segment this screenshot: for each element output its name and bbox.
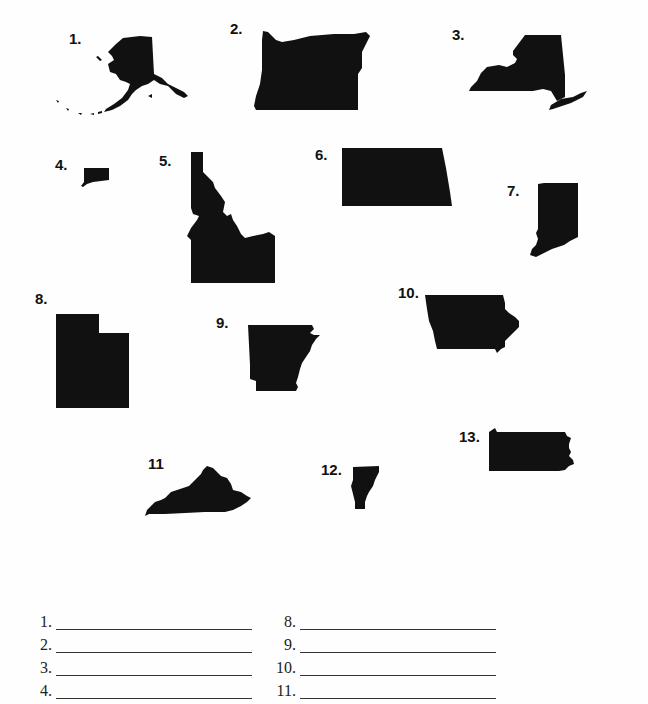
state-shape-arkansas xyxy=(248,325,320,391)
shape-number-9: 9. xyxy=(216,315,229,330)
answer-label: 10. xyxy=(0,660,300,676)
answer-line-10[interactable] xyxy=(300,661,496,676)
state-shapes-worksheet: 1. 2. 3. 4. 5. xyxy=(0,0,648,704)
state-shape-idaho xyxy=(187,152,277,283)
answer-label: 9. xyxy=(0,637,300,653)
shape-number-10: 10. xyxy=(398,285,419,300)
state-shape-alaska xyxy=(50,34,190,118)
state-shape-utah xyxy=(56,314,129,408)
shape-number-8: 8. xyxy=(35,291,48,306)
shape-number-7: 7. xyxy=(507,183,520,198)
answer-row-9: 9. xyxy=(0,633,496,653)
answer-line-9[interactable] xyxy=(300,638,496,653)
state-shape-kentucky xyxy=(145,466,251,516)
shape-number-12: 12. xyxy=(321,462,342,477)
answer-label: 8. xyxy=(0,614,300,630)
state-shape-connecticut xyxy=(81,168,110,188)
shape-number-5: 5. xyxy=(159,153,172,168)
answer-row-8: 8. xyxy=(0,610,496,630)
state-shape-oregon xyxy=(254,30,370,110)
state-shape-pennsylvania xyxy=(489,428,574,475)
shape-number-2: 2. xyxy=(230,21,243,36)
shape-number-13: 13. xyxy=(459,429,480,444)
answer-row-10: 10. xyxy=(0,656,496,676)
answer-label: 11. xyxy=(0,683,300,699)
state-shape-iowa xyxy=(425,295,519,353)
answer-line-8[interactable] xyxy=(300,615,496,630)
shape-number-4: 4. xyxy=(55,157,68,172)
state-shape-vermont xyxy=(351,466,380,509)
shape-number-6: 6. xyxy=(315,147,328,162)
shape-number-3: 3. xyxy=(452,27,465,42)
state-shape-north-dakota xyxy=(342,148,452,206)
state-shape-indiana xyxy=(530,183,578,257)
answer-line-11[interactable] xyxy=(300,684,496,699)
state-shape-new-york xyxy=(469,35,587,121)
answer-row-11: 11. xyxy=(0,679,496,699)
